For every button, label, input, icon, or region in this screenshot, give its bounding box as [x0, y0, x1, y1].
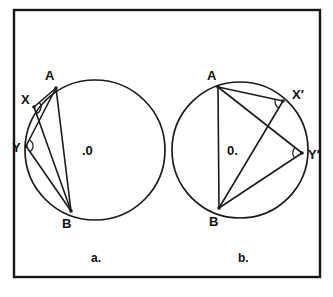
angle-mark-Y: [29, 140, 33, 152]
vertex-dot-A: [216, 85, 220, 89]
point-label-B: B: [62, 216, 71, 231]
point-label-X: X: [21, 92, 30, 107]
vertex-dot-Y: [24, 144, 28, 148]
point-label-A: A: [45, 68, 55, 83]
point-label-Yprime: Y′: [308, 147, 320, 162]
figure-frame: [14, 10, 320, 277]
vertex-dot-Yprime: [300, 151, 304, 155]
point-label-A: A: [207, 68, 217, 83]
center-label-a: .0: [82, 143, 93, 158]
point-label-Xprime: X′: [292, 87, 304, 102]
angle-mark-Yprime: [293, 147, 295, 158]
panel-label-b: b.: [238, 251, 249, 265]
panel-a: AXYB.0a.: [12, 68, 165, 265]
vertex-dot-A: [54, 86, 58, 90]
geometry-figure: AXYB.0a. AX′Y′B0.b.: [0, 0, 333, 297]
chord-A-B: [218, 87, 219, 208]
center-label-b: 0.: [227, 143, 238, 158]
chord-A-Y: [26, 88, 56, 146]
vertex-dot-B: [69, 209, 73, 213]
vertex-dot-Xprime: [281, 99, 285, 103]
vertex-dot-X: [32, 105, 36, 109]
panel-b: AX′Y′B0.b.: [172, 68, 320, 265]
point-label-Y: Y: [12, 140, 21, 155]
chord-A-X: [34, 88, 56, 107]
circle-outline-b: [172, 82, 308, 218]
vertex-dot-B: [217, 206, 221, 210]
figure-canvas: AXYB.0a. AX′Y′B0.b.: [0, 0, 333, 297]
circle-outline-a: [25, 80, 165, 220]
panel-label-a: a.: [91, 251, 101, 265]
point-label-B: B: [209, 214, 218, 229]
chord-B-Yprime: [219, 153, 302, 208]
